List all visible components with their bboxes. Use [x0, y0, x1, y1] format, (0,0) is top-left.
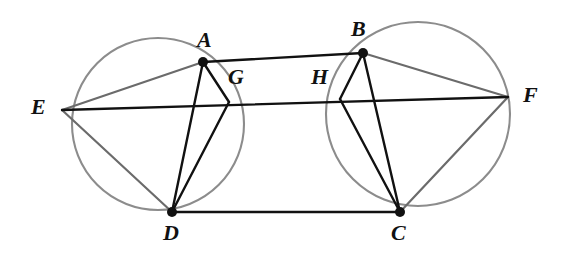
point-label-c: C	[391, 222, 406, 244]
point-label-g: G	[228, 66, 244, 88]
point-label-b: B	[351, 18, 366, 40]
segment-gd	[172, 102, 229, 212]
segment-fb	[363, 53, 508, 97]
segment-ef	[62, 97, 508, 110]
segment-ad	[172, 62, 203, 212]
geometry-figure: A B C D E F G H	[0, 0, 570, 262]
segment-hc	[340, 99, 400, 212]
point-label-d: D	[163, 222, 179, 244]
segment-ab	[203, 53, 363, 62]
vertex-dot-d	[167, 207, 177, 217]
vertex-dot-a	[198, 57, 208, 67]
point-label-h: H	[311, 66, 328, 88]
vertex-dot-b	[358, 48, 368, 58]
circle-group	[72, 22, 510, 210]
segment-ea	[62, 62, 203, 110]
point-label-e: E	[31, 96, 46, 118]
segment-bc	[363, 53, 400, 212]
point-label-a: A	[197, 29, 212, 51]
segment-ag	[203, 62, 229, 102]
vertex-dot-c	[395, 207, 405, 217]
geometry-canvas	[0, 0, 570, 262]
segment-fc	[400, 97, 508, 212]
segment-ed	[62, 110, 172, 212]
right-circle	[326, 22, 510, 206]
gray-chord-group	[62, 53, 508, 212]
point-label-f: F	[523, 84, 538, 106]
